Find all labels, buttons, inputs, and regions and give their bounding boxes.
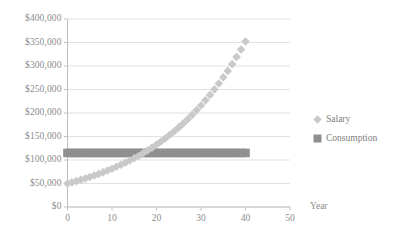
y-axis-tick-label: $300,000 xyxy=(25,60,61,70)
data-point-salary xyxy=(232,53,241,62)
x-axis-tick-label: 40 xyxy=(226,213,266,223)
y-axis-tick-label: $200,000 xyxy=(25,107,61,117)
data-point-consumption xyxy=(241,149,250,158)
legend-marker-salary xyxy=(313,115,322,124)
data-point-salary xyxy=(219,73,228,82)
y-axis-tick-label: $50,000 xyxy=(30,178,62,188)
y-axis-tick-label: $0 xyxy=(52,201,62,211)
data-point-salary xyxy=(223,67,232,76)
x-axis-title: Year xyxy=(310,201,328,211)
y-axis-tick-label: $100,000 xyxy=(25,154,61,164)
y-axis-tick-label: $350,000 xyxy=(25,37,61,47)
y-axis-tick-label: $400,000 xyxy=(25,13,61,23)
x-axis-tick-label: 0 xyxy=(48,213,88,223)
x-axis-tick-label: 20 xyxy=(137,213,177,223)
data-point-salary xyxy=(241,37,250,46)
y-axis-tick-label: $150,000 xyxy=(25,131,61,141)
series-consumption xyxy=(63,149,250,158)
data-point-salary xyxy=(228,60,237,69)
legend-marker-consumption xyxy=(313,134,322,143)
series-salary xyxy=(63,37,250,188)
x-axis-tick-label: 10 xyxy=(92,213,132,223)
legend-label-consumption: Consumption xyxy=(326,133,377,143)
x-axis-tick-label: 30 xyxy=(181,213,221,223)
y-axis-tick-label: $250,000 xyxy=(25,84,61,94)
data-point-salary xyxy=(215,79,224,88)
chart-container: $0$50,000$100,000$150,000$200,000$250,00… xyxy=(0,0,396,252)
legend-label-salary: Salary xyxy=(326,114,350,124)
data-point-salary xyxy=(237,45,246,54)
x-axis-tick-label: 50 xyxy=(270,213,310,223)
